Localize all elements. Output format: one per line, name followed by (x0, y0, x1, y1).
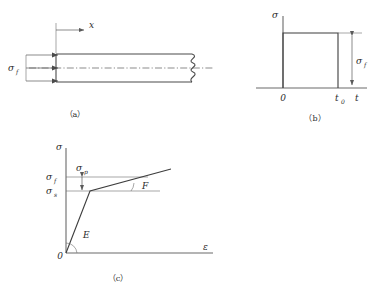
stress-pulse-curve (283, 33, 338, 88)
pulse-duration-subscript: 0 (341, 98, 345, 105)
hardening-modulus-arc (131, 183, 134, 191)
sigma-f-subscript: f (53, 177, 58, 185)
sigma-p-subscript: p (84, 168, 88, 176)
panel-c-caption: （c） (108, 274, 128, 283)
figure-canvas: x σ f （a） σ t (0, 0, 379, 294)
panel-b-origin-label: 0 (280, 93, 286, 103)
sigma-p-label: σ p (76, 163, 88, 176)
panel-c-y-axis-label: σ (56, 142, 63, 152)
amplitude-symbol: σ (356, 56, 363, 66)
sigma-s-subscript: s (54, 191, 57, 198)
amplitude-subscript: f (363, 61, 368, 69)
sigma-f-symbol: σ (46, 172, 53, 182)
panel-c-origin-label: 0 (57, 251, 63, 261)
applied-stress-subscript: f (15, 68, 20, 76)
panel-b-x-axis-label: t (355, 93, 359, 103)
panel-b-caption: （b） (304, 114, 325, 123)
pulse-duration-symbol: t (335, 93, 339, 103)
panel-b-amplitude-label: σ f (356, 56, 368, 69)
x-axis-label: x (89, 20, 94, 30)
panel-b-y-axis-label: σ (272, 10, 279, 20)
sigma-p-symbol: σ (76, 163, 83, 173)
sigma-s-label: σ s (46, 186, 57, 198)
applied-stress-symbol: σ (8, 63, 15, 73)
hardening-modulus-label: F (141, 181, 149, 191)
applied-stress-label: σ f (8, 63, 20, 76)
panel-c-x-axis-label: ε (203, 242, 208, 252)
elastic-modulus-label: E (82, 230, 90, 240)
panel-a: x σ f （a） (8, 20, 213, 119)
panel-c: σ ε σ p σ f σ s E F 0 （c (46, 142, 213, 283)
pulse-duration-label: t 0 (335, 93, 345, 105)
sigma-f-label: σ f (46, 172, 58, 185)
figure-root: x σ f （a） σ t (0, 0, 379, 294)
panel-b: σ t σ f 0 t 0 （b） (256, 10, 368, 123)
panel-a-caption: （a） (65, 110, 86, 119)
sigma-s-symbol: σ (46, 186, 53, 196)
